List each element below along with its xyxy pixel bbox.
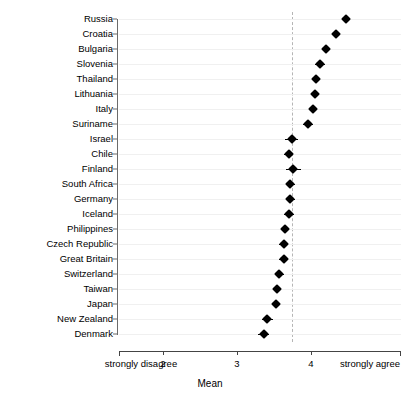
x-axis-tick-label-2: 2	[160, 358, 165, 369]
y-axis-tick	[113, 334, 117, 335]
y-axis-label: Czech Republic	[46, 239, 113, 249]
y-axis-label: Russia	[84, 14, 113, 24]
data-point	[259, 329, 269, 339]
gridline	[119, 304, 401, 305]
y-axis-tick	[113, 64, 117, 65]
gridline	[119, 184, 401, 185]
data-point	[262, 314, 272, 324]
y-axis-tick	[113, 94, 117, 95]
y-axis-category-labels: RussiaCroatiaBulgariaSloveniaThailandLit…	[0, 12, 113, 342]
x-axis-line	[119, 351, 401, 352]
y-axis-label: Switzerland	[64, 269, 113, 279]
y-axis-label: Denmark	[74, 329, 113, 339]
y-axis-label: Bulgaria	[78, 44, 113, 54]
y-axis-label: Japan	[87, 299, 113, 309]
y-axis-tick	[113, 19, 117, 20]
reference-line	[292, 12, 293, 342]
y-axis-label: Suriname	[72, 119, 113, 129]
gridline	[119, 274, 401, 275]
x-axis-tick	[163, 351, 164, 355]
y-axis-label: Taiwan	[83, 284, 113, 294]
y-axis-tick	[113, 199, 117, 200]
gridline	[119, 214, 401, 215]
data-point	[279, 254, 289, 264]
y-axis-label: Slovenia	[77, 59, 113, 69]
gridline	[119, 64, 401, 65]
y-axis-label: Germany	[74, 194, 113, 204]
data-point	[311, 74, 321, 84]
data-point	[315, 59, 325, 69]
x-axis-label-strongly-disagree: strongly disagree	[105, 358, 177, 369]
data-point	[287, 134, 297, 144]
gridline	[119, 289, 401, 290]
data-point	[331, 29, 341, 39]
data-point	[308, 104, 318, 114]
y-axis-spine	[117, 19, 118, 335]
y-axis-tick	[113, 229, 117, 230]
x-axis-label-strongly-agree: strongly agree	[340, 358, 400, 369]
gridline	[119, 34, 401, 35]
gridline	[119, 49, 401, 50]
y-axis-tick	[113, 79, 117, 80]
gridline	[119, 124, 401, 125]
dot-plot-chart: RussiaCroatiaBulgariaSloveniaThailandLit…	[0, 0, 420, 399]
data-point	[285, 179, 295, 189]
gridline	[119, 319, 401, 320]
y-axis-label: Croatia	[82, 29, 113, 39]
gridline	[119, 109, 401, 110]
data-point	[272, 284, 282, 294]
y-axis-label: Lithuania	[74, 89, 113, 99]
y-axis-tick	[113, 304, 117, 305]
x-axis-title: Mean	[0, 378, 420, 389]
y-axis-tick	[113, 319, 117, 320]
x-axis-tick-label-4: 4	[308, 358, 313, 369]
y-axis-label: Finland	[82, 164, 113, 174]
y-axis-tick	[113, 124, 117, 125]
x-axis-tick	[311, 351, 312, 355]
plot-area	[119, 12, 401, 342]
data-point	[288, 164, 298, 174]
gridline	[119, 259, 401, 260]
gridline	[119, 94, 401, 95]
data-point	[274, 269, 284, 279]
data-point	[285, 194, 295, 204]
y-axis-tick	[113, 49, 117, 50]
gridline	[119, 169, 401, 170]
data-point	[280, 224, 290, 234]
gridline	[119, 199, 401, 200]
y-axis-label: Israel	[90, 134, 113, 144]
gridline	[119, 139, 401, 140]
data-point	[321, 44, 331, 54]
y-axis-label: Great Britain	[60, 254, 113, 264]
y-axis-label: Philippines	[67, 224, 113, 234]
y-axis-label: New Zealand	[57, 314, 113, 324]
x-axis-right-cap	[400, 351, 401, 356]
y-axis-label: Iceland	[82, 209, 113, 219]
gridline	[119, 79, 401, 80]
y-axis-label: Italy	[96, 104, 113, 114]
y-axis-tick	[113, 289, 117, 290]
y-axis-tick	[113, 274, 117, 275]
y-axis-tick	[113, 109, 117, 110]
y-axis-tick	[113, 34, 117, 35]
x-axis-tick	[237, 351, 238, 355]
y-axis-label: South Africa	[62, 179, 113, 189]
y-axis-tick	[113, 214, 117, 215]
data-point	[310, 89, 320, 99]
y-axis-label: Thailand	[77, 74, 113, 84]
data-point	[271, 299, 281, 309]
gridline	[119, 244, 401, 245]
data-point	[341, 14, 351, 24]
data-point	[303, 119, 313, 129]
gridline	[119, 229, 401, 230]
y-axis-label: Chile	[91, 149, 113, 159]
y-axis-tick	[113, 244, 117, 245]
data-point	[279, 239, 289, 249]
y-axis-tick	[113, 184, 117, 185]
x-axis-tick-label-3: 3	[234, 358, 239, 369]
y-axis-tick	[113, 169, 117, 170]
x-axis-left-cap	[119, 351, 120, 356]
y-axis-tick	[113, 154, 117, 155]
y-axis-tick	[113, 259, 117, 260]
gridline	[119, 154, 401, 155]
